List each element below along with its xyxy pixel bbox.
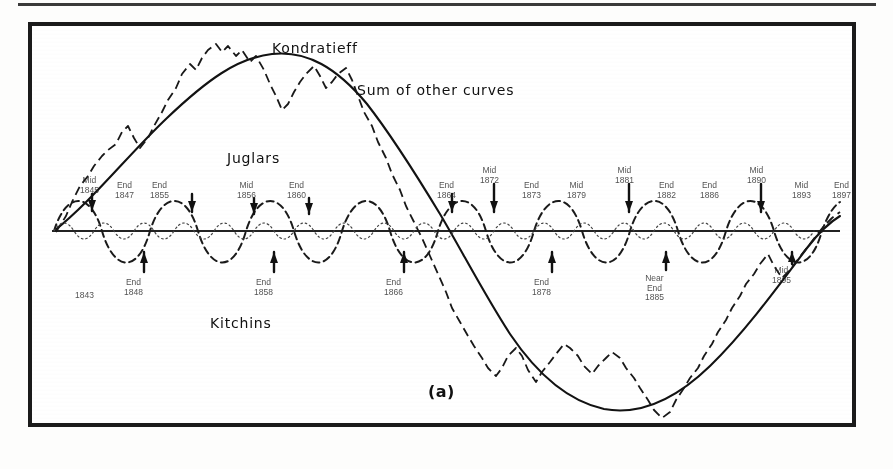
year-line: Near xyxy=(645,273,663,283)
year-line: 1847 xyxy=(115,190,134,200)
year-label-mid-1872: Mid1872 xyxy=(480,166,499,185)
year-line: 1848 xyxy=(124,287,143,297)
year-label-end-1848: End1848 xyxy=(124,278,143,297)
year-label-mid-1881: Mid1881 xyxy=(615,166,634,185)
panel-caption: (a) xyxy=(428,384,455,401)
curve-label-sum-of-other-curves: Sum of other curves xyxy=(357,83,514,98)
year-line: 1890 xyxy=(747,175,766,185)
year-label-end-1886: End1886 xyxy=(700,181,719,200)
figure-inner: Kondratieff Sum of other curves Juglars … xyxy=(32,26,852,423)
year-line: End xyxy=(126,277,141,287)
year-label-end-1866: End1866 xyxy=(384,278,403,297)
year-line: End xyxy=(439,180,454,190)
curve-label-kitchins: Kitchins xyxy=(210,316,272,331)
page-top-rule xyxy=(18,3,876,6)
year-line: End xyxy=(524,180,539,190)
year-line: 1897 xyxy=(832,190,851,200)
year-line: End xyxy=(647,283,662,293)
year-label-mid-1893: Mid1893 xyxy=(792,181,811,200)
year-line: 1864 xyxy=(437,190,456,200)
year-line: 1872 xyxy=(480,175,499,185)
year-line: 1860 xyxy=(287,190,306,200)
year-line: 1843 xyxy=(75,290,94,300)
year-line: 1878 xyxy=(532,287,551,297)
year-line: 1895 xyxy=(772,275,791,285)
year-label-mid-1895: Mid1895 xyxy=(772,266,791,285)
year-line: Mid xyxy=(618,165,632,175)
year-line: 1856 xyxy=(237,190,256,200)
year-label-end-1858: End1858 xyxy=(254,278,273,297)
year-line: 1845 xyxy=(80,185,99,195)
year-label-end-1864: End1864 xyxy=(437,181,456,200)
year-line: Mid xyxy=(240,180,254,190)
year-line: Mid xyxy=(750,165,764,175)
year-line: End xyxy=(834,180,849,190)
year-line: 1858 xyxy=(254,287,273,297)
year-line: 1855 xyxy=(150,190,169,200)
year-label-mid-1845: Mid1845 xyxy=(80,176,99,195)
year-line: 1893 xyxy=(792,190,811,200)
year-line: End xyxy=(117,180,132,190)
year-line: 1882 xyxy=(657,190,676,200)
year-line: 1879 xyxy=(567,190,586,200)
year-line: 1866 xyxy=(384,287,403,297)
year-label-end-1855: End1855 xyxy=(150,181,169,200)
year-line: Mid xyxy=(570,180,584,190)
year-label-mid-1856: Mid1856 xyxy=(237,181,256,200)
year-line: 1886 xyxy=(700,190,719,200)
year-label-end-1882: End1882 xyxy=(657,181,676,200)
year-line: End xyxy=(534,277,549,287)
year-label-mid-1890: Mid1890 xyxy=(747,166,766,185)
year-line: End xyxy=(256,277,271,287)
year-line: End xyxy=(386,277,401,287)
year-label-end-1847: End1847 xyxy=(115,181,134,200)
year-line: End xyxy=(659,180,674,190)
year-line: Mid xyxy=(83,175,97,185)
year-line: Mid xyxy=(795,180,809,190)
year-line: Mid xyxy=(483,165,497,175)
year-line: 1881 xyxy=(615,175,634,185)
year-label-end-1860: End1860 xyxy=(287,181,306,200)
curve-label-kondratieff: Kondratieff xyxy=(272,41,358,56)
year-line: 1885 xyxy=(645,292,664,302)
year-line: Mid xyxy=(775,265,789,275)
curve-label-juglars: Juglars xyxy=(227,151,280,166)
year-label-end-1878: End1878 xyxy=(532,278,551,297)
figure-frame: Kondratieff Sum of other curves Juglars … xyxy=(28,22,856,427)
year-label-mid-1879: Mid1879 xyxy=(567,181,586,200)
year-label-near-end-1885: NearEnd1885 xyxy=(645,274,664,303)
scanned-page: Kondratieff Sum of other curves Juglars … xyxy=(0,0,893,469)
year-line: End xyxy=(289,180,304,190)
year-line: End xyxy=(152,180,167,190)
year-line: End xyxy=(702,180,717,190)
year-label-end-1897: End1897 xyxy=(832,181,851,200)
year-label-1843: 1843 xyxy=(75,291,94,301)
year-line: 1873 xyxy=(522,190,541,200)
year-label-end-1873: End1873 xyxy=(522,181,541,200)
